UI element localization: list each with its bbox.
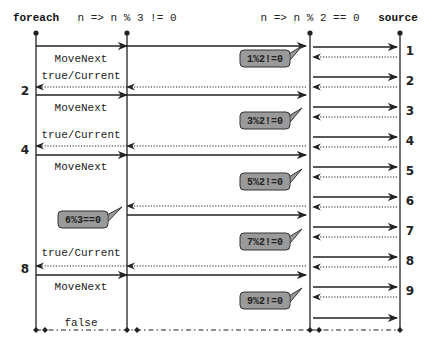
yielded-value: 2 [21,84,29,98]
end-diamond [42,327,48,333]
bubble-text: 5%2!=0 [247,177,283,188]
condition-bubble: 6%3==0 [58,207,122,228]
bubble-text: 9%2!=0 [247,296,283,307]
bubble-text: 3%2!=0 [247,116,283,127]
bubble-seam [288,117,290,124]
lifeline-header: source [378,12,418,24]
source-value: 4 [406,134,414,148]
condition-bubbles: 1%2!=03%2!=05%2!=06%3==07%2!=09%2!=0 [58,46,302,309]
source-value: 8 [406,254,414,268]
end-diamond [307,327,313,333]
messages [36,46,397,318]
condition-bubble: 1%2!=0 [240,46,302,67]
source-value: 5 [406,164,414,178]
source-value: 2 [406,74,414,88]
message-label: true/Current [41,129,120,141]
lifeline-foreach: foreach [13,12,59,330]
end-diamond [397,327,403,333]
yielded-value: 4 [21,143,29,157]
end-diamond [33,327,39,333]
condition-bubble: 3%2!=0 [240,108,302,129]
bubble-seam [288,238,290,245]
source-value: 3 [406,104,414,118]
bubble-seam [288,297,290,304]
lifeline-start-dot [124,30,129,35]
lifeline-start-dot [33,30,38,35]
message-labels: MoveNexttrue/CurrentMoveNexttrue/Current… [21,44,414,329]
bubble-text: 1%2!=0 [247,54,283,65]
lifeline-header: n => n % 3 != 0 [77,12,176,24]
end-diamond [316,327,322,333]
bubble-text: 7%2!=0 [247,237,283,248]
message-label: MoveNext [55,161,108,173]
yielded-value: 8 [21,262,29,276]
source-value: 9 [406,284,414,298]
lifeline-header: n => n % 2 == 0 [260,12,359,24]
end-diamond [134,327,140,333]
message-label: false [64,317,97,329]
source-value: 1 [406,44,414,58]
diagram-svg: foreachn => n % 3 != 0n => n % 2 == 0sou… [0,0,433,351]
bubble-seam [288,178,290,185]
bubble-text: 6%3==0 [65,215,101,226]
message-label: true/Current [41,70,120,82]
end-diamond [124,327,130,333]
condition-bubble: 9%2!=0 [240,288,302,309]
condition-bubble: 5%2!=0 [240,169,302,190]
source-value: 6 [406,194,414,208]
message-label: MoveNext [55,281,108,293]
lifeline-header: foreach [13,12,59,24]
lifeline-start-dot [397,30,402,35]
source-value: 7 [406,224,414,238]
condition-bubble: 7%2!=0 [240,229,302,250]
message-label: true/Current [41,247,120,259]
bubble-seam [106,216,108,223]
message-label: MoveNext [55,53,108,65]
bubble-seam [288,55,290,62]
sequence-diagram: foreachn => n % 3 != 0n => n % 2 == 0sou… [0,0,433,351]
lifeline-start-dot [307,30,312,35]
message-label: MoveNext [55,102,108,114]
